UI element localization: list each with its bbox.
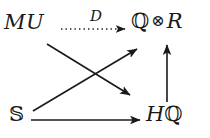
arrow-s-to-q-tensor-r: [33, 49, 137, 111]
node-q-tensor-r-r: R: [167, 9, 183, 33]
node-hq-q: ℚ: [164, 102, 182, 126]
node-q-tensor-r-q: ℚ: [131, 9, 149, 33]
node-hq: Hℚ: [146, 104, 183, 125]
tensor-product-icon: ⊗: [149, 11, 166, 30]
commutative-diagram: Q (x) R : dotted horizontal --> HQ : dia…: [0, 0, 210, 138]
node-sphere-spectrum: 𝕊: [9, 104, 24, 125]
arrow-mu-to-hq: [47, 44, 130, 95]
node-mu: MU: [4, 12, 44, 33]
node-hq-h: H: [146, 102, 164, 126]
node-q-tensor-r: ℚ⊗R: [131, 11, 183, 32]
edge-label-d: D: [90, 9, 102, 24]
